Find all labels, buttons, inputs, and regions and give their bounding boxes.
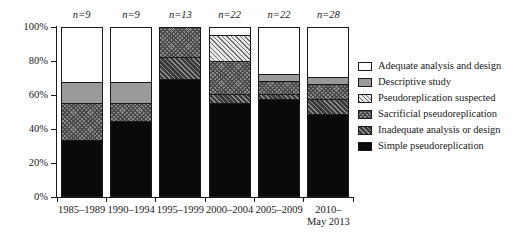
- y-axis-tick: [51, 95, 56, 96]
- x-axis-tick: [106, 198, 107, 202]
- legend-item[interactable]: Sacrificial pseudoreplication: [358, 106, 524, 122]
- bar-segment: [111, 104, 151, 122]
- legend-swatch-icon: [358, 62, 372, 71]
- legend-item[interactable]: Pseudoreplication suspected: [358, 90, 524, 106]
- legend-swatch-icon: [358, 142, 372, 151]
- sample-size-text: n=22: [268, 9, 291, 20]
- sample-size-text: n=28: [317, 9, 340, 20]
- sample-size-label: n=22: [209, 9, 251, 20]
- bar-segment: [210, 36, 250, 61]
- bar-stack[interactable]: [258, 27, 300, 197]
- sample-size-label: n=22: [258, 9, 300, 20]
- y-axis-tick-label: 40%: [0, 124, 48, 134]
- bar-stack[interactable]: [61, 27, 103, 197]
- sample-size-text: n=9: [73, 9, 91, 20]
- bar-segment: [111, 28, 151, 83]
- bar-segment: [259, 100, 299, 196]
- chart-legend: Adequate analysis and designDescriptive …: [358, 58, 524, 154]
- legend-item-label: Sacrificial pseudoreplication: [378, 108, 497, 120]
- sample-size-text: n=13: [169, 9, 192, 20]
- bar-segment: [62, 104, 102, 141]
- bar-segment: [111, 122, 151, 196]
- bar-segment: [160, 80, 200, 196]
- y-axis-tick: [51, 61, 56, 62]
- sample-size-text: n=9: [122, 9, 140, 20]
- sample-size-text: n=22: [218, 9, 241, 20]
- bar-segment: [308, 100, 348, 115]
- bar-segment: [259, 82, 299, 95]
- bar-segment: [160, 58, 200, 80]
- legend-item[interactable]: Adequate analysis and design: [358, 58, 524, 74]
- bar-segment: [160, 28, 200, 58]
- bar-segment: [210, 95, 250, 103]
- x-axis-tick: [254, 198, 255, 202]
- bar-stack[interactable]: [307, 27, 349, 197]
- bar-segment: [259, 75, 299, 82]
- y-axis-tick: [51, 163, 56, 164]
- bar-segment: [308, 78, 348, 85]
- bar-segment: [259, 95, 299, 100]
- legend-item-label: Pseudoreplication suspected: [378, 92, 495, 104]
- y-axis-tick-label: 0%: [0, 192, 48, 202]
- legend-item[interactable]: Inadequate analysis or design: [358, 122, 524, 138]
- x-axis-tick: [57, 198, 58, 202]
- x-axis-tick-label-line: May 2013: [288, 216, 368, 228]
- sample-size-label: n=13: [159, 9, 201, 20]
- legend-item-label: Simple pseudoreplication: [378, 140, 484, 152]
- bar-group: [258, 27, 300, 197]
- bar-segment: [62, 141, 102, 196]
- bar-stack[interactable]: [110, 27, 152, 197]
- bar-group: [61, 27, 103, 197]
- legend-item[interactable]: Descriptive study: [358, 74, 524, 90]
- bar-segment: [210, 28, 250, 36]
- y-axis-tick: [51, 129, 56, 130]
- stacked-bar-chart-figure: 0%20%40%60%80%100% 1985–19891990–1994199…: [0, 0, 526, 236]
- bar-segment: [62, 83, 102, 103]
- bar-stack[interactable]: [209, 27, 251, 197]
- y-axis-tick-label: 80%: [0, 56, 48, 66]
- bar-segment: [308, 85, 348, 100]
- x-axis-tick: [155, 198, 156, 202]
- x-axis-tick: [303, 198, 304, 202]
- bar-segment: [308, 115, 348, 196]
- x-axis-tick-label-line: 2010–: [315, 204, 341, 215]
- sample-size-label: n=9: [61, 9, 103, 20]
- bar-segment: [62, 28, 102, 83]
- plot-area: [57, 27, 353, 197]
- y-axis-tick-label: 60%: [0, 90, 48, 100]
- bar-group: [307, 27, 349, 197]
- bar-segment: [259, 28, 299, 75]
- legend-item-label: Descriptive study: [378, 76, 451, 88]
- y-axis-tick-label: 20%: [0, 158, 48, 168]
- legend-swatch-icon: [358, 94, 372, 103]
- bar-group: [209, 27, 251, 197]
- x-axis-tick: [353, 198, 354, 202]
- bar-group: [159, 27, 201, 197]
- bar-segment: [210, 104, 250, 196]
- x-axis-tick-label: 2010–May 2013: [288, 204, 368, 228]
- legend-item-label: Adequate analysis and design: [378, 60, 501, 72]
- legend-item-label: Inadequate analysis or design: [378, 124, 500, 136]
- legend-item[interactable]: Simple pseudoreplication: [358, 138, 524, 154]
- y-axis-tick: [51, 27, 56, 28]
- bar-stack[interactable]: [159, 27, 201, 197]
- legend-swatch-icon: [358, 126, 372, 135]
- legend-swatch-icon: [358, 110, 372, 119]
- sample-size-label: n=28: [307, 9, 349, 20]
- bar-segment: [111, 83, 151, 103]
- x-axis-tick: [205, 198, 206, 202]
- bar-segment: [210, 62, 250, 96]
- bar-group: [110, 27, 152, 197]
- legend-swatch-icon: [358, 78, 372, 87]
- y-axis-tick-label: 100%: [0, 22, 48, 32]
- sample-size-label: n=9: [110, 9, 152, 20]
- bar-segment: [308, 28, 348, 78]
